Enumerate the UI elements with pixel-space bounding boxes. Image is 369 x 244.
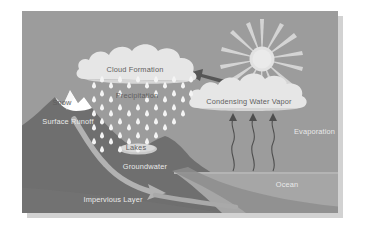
label-cloud-formation: Cloud Formation [107,65,164,74]
label-impervious-layer: Impervious Layer [83,195,142,204]
figure-canvas: Cloud Formation Precipitation Snow Surfa… [0,0,369,244]
label-groundwater: Groundwater [123,162,168,171]
label-precipitation: Precipitation [116,91,159,100]
label-condensing-water-vapor: Condensing Water Vapor [206,97,292,106]
label-surface-runoff: Surface Runoff [42,117,94,126]
label-lakes: Lakes [126,143,147,152]
label-ocean: Ocean [276,180,299,189]
water-cycle-diagram-panel: Cloud Formation Precipitation Snow Surfa… [22,11,338,213]
label-snow: Snow [52,98,72,107]
label-evaporation: Evaporation [294,127,335,136]
